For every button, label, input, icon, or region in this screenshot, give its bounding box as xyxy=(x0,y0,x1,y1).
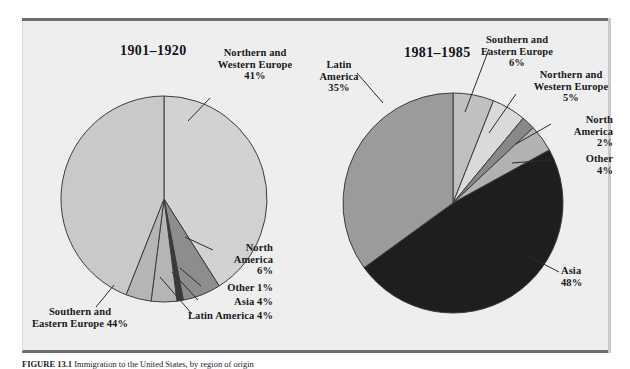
leader-nwe-right xyxy=(489,94,516,133)
leader-na-right xyxy=(516,124,551,144)
leader-asia-right xyxy=(528,256,559,272)
leader-latin-left xyxy=(160,277,192,314)
leader-lines xyxy=(0,0,630,369)
leader-na-left xyxy=(185,237,213,250)
figure-canvas: 1901–1920 Northern and Western Europe 41… xyxy=(0,0,630,369)
caption-label: FIGURE 13.1 xyxy=(22,359,72,369)
leader-nwe-left xyxy=(188,98,210,121)
leader-other-right xyxy=(512,160,551,163)
figure-caption: FIGURE 13.1 Immigration to the United St… xyxy=(22,359,622,369)
leader-latin-right xyxy=(357,73,383,103)
leader-see-left xyxy=(96,285,114,307)
caption-text: Immigration to the United States, by reg… xyxy=(74,359,254,369)
leader-see-right xyxy=(465,49,489,112)
